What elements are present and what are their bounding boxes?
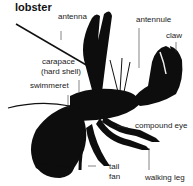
label-swimmeret: swimmeret	[30, 81, 69, 90]
label-claw: claw	[166, 31, 182, 40]
label-walking-leg: walking leg	[145, 173, 185, 182]
label-fan: fan	[109, 172, 120, 181]
label-compound-eye: compound eye	[135, 121, 187, 130]
label-carapace: carapace	[42, 57, 75, 66]
label-carapace-note: (hard shell)	[41, 67, 81, 76]
label-tail: tail	[109, 162, 119, 171]
right-claw-shape	[132, 46, 182, 106]
label-antenna: antenna	[58, 12, 87, 21]
label-antennule: antennule	[136, 15, 171, 24]
left-claw-shape	[83, 11, 112, 92]
lobster-illustration	[0, 0, 193, 186]
